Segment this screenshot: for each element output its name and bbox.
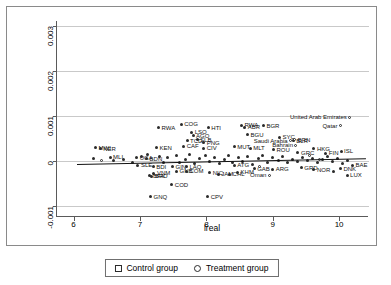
data-point [157,126,160,129]
point-label: ARG [276,166,289,172]
data-point [171,165,174,168]
y-tick-label: 0.003 [47,26,55,54]
data-point [94,146,97,149]
y-tick-label: 0.002 [47,71,55,99]
data-point [300,166,303,169]
data-point [237,156,240,159]
data-point [122,158,125,161]
data-point [175,170,178,173]
legend-label-treatment: Treatment group [206,263,269,273]
data-point [109,156,112,159]
data-point [218,162,221,165]
gridline [57,206,369,207]
plot-area: -0.00100.0010.0020.003 678910 RWACOGHTIR… [56,21,368,217]
data-point [249,147,252,150]
data-point [166,156,169,159]
data-point [308,154,311,157]
point-label: NOR [317,167,330,173]
figure: -0.00100.0010.0020.003 678910 RWACOGHTIR… [0,0,391,285]
data-point [208,171,211,174]
data-point [213,156,216,159]
data-point [207,126,210,129]
point-label: NIC [213,170,223,176]
data-point [340,150,343,153]
point-label: Bahrain [272,142,293,148]
data-point [268,174,271,177]
point-label: COD [175,182,188,188]
point-label: GRD [304,165,317,171]
data-point [243,126,246,129]
data-point [233,164,236,167]
point-label: Oman [250,172,266,178]
data-point [296,151,299,154]
point-label: CPV [211,194,223,200]
data-point [136,164,139,167]
data-point [198,157,201,160]
legend-label-control: Control group [126,263,178,273]
point-label: COG [184,121,198,127]
data-point [170,183,173,186]
point-label: ABR [248,124,260,130]
point-label: KEN [160,145,172,151]
legend-item-treatment: Treatment group [194,263,269,273]
data-point [326,155,329,158]
point-label: ISL [344,148,353,154]
gridline [57,26,369,27]
data-point [253,167,256,170]
data-point [182,145,185,148]
data-point [99,147,102,150]
data-point [227,154,230,157]
point-label: GNQ [154,194,168,200]
data-point [272,148,275,151]
point-label: COM [189,168,203,174]
x-axis-title: lreal [56,223,368,233]
point-label: BRN [298,137,311,143]
data-point [346,174,349,177]
point-label: BAE [355,162,367,168]
data-point [204,154,207,157]
data-point [186,139,189,142]
data-point [185,170,188,173]
y-tick-label: -0.001 [47,206,55,234]
point-label: United Arab Emirates [290,114,347,120]
point-label: LUX [350,172,362,178]
data-point [294,144,297,147]
point-label: CAF [187,143,199,149]
data-point [332,170,335,173]
data-point [246,155,249,158]
data-point [135,156,138,159]
data-point [341,162,344,165]
point-label: ATG [237,162,249,168]
data-point [281,155,284,158]
data-point [112,159,115,162]
point-label: NER [103,146,116,152]
data-point [251,163,254,166]
data-point [339,124,342,127]
data-point [206,195,209,198]
y-tick-label: 0.001 [47,116,55,144]
data-point [202,141,205,144]
y-tick-label: 0 [47,161,55,189]
point-label: MLT [253,145,265,151]
point-label: RWA [162,125,176,131]
chart-legend: Control group Treatment group [104,259,278,277]
data-point [180,123,183,126]
legend-item-control: Control group [114,263,178,273]
data-point [190,131,193,134]
data-point [261,154,264,157]
point-label: BRD [155,173,168,179]
gridline [57,71,369,72]
square-marker-icon [114,265,121,272]
point-label: BGU [251,132,264,138]
data-point [236,171,239,174]
data-point [155,146,158,149]
circle-marker-icon [194,265,201,272]
data-point [228,173,231,176]
data-point [246,133,249,136]
data-point [348,116,351,119]
chart-frame: -0.00100.0010.0020.003 678910 RWACOGHTIR… [6,6,377,246]
data-point [301,156,304,159]
data-point [331,160,334,163]
point-label: BDI [156,164,166,170]
data-point [202,147,205,150]
